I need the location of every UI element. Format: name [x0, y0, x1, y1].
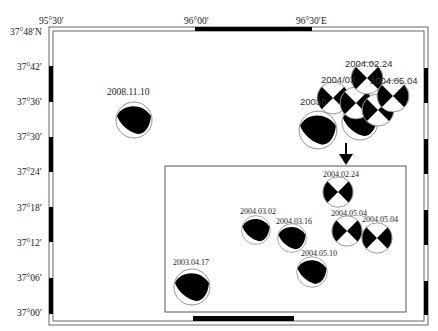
lon-label-96-00: 96°00′	[184, 16, 209, 26]
lat-label-37-36: 37°36′	[17, 97, 42, 107]
lat-label-37-42: 37°42′	[17, 62, 42, 72]
inset-label-2004-05-04-b: 2004.05.04	[362, 215, 398, 224]
inset-box: 2004.02.24 2004.03.02 2004.03.16 2004.05…	[165, 166, 406, 312]
cluster-label-2004-02-24: 2004.02.24	[345, 58, 393, 69]
inset-label-2004-05-10: 2004.05.10	[301, 249, 337, 258]
lat-label-37-48: 37°48′N	[10, 27, 42, 37]
lat-label-37-00: 37°00′	[17, 308, 42, 318]
focal-mechanism-map: 95°30′ 96°00′ 96°30′E 37°48′N 37°42′ 37°…	[0, 0, 438, 331]
down-arrow	[339, 143, 353, 165]
lat-label-37-24: 37°24′	[17, 167, 42, 177]
event-2008-11-10: 2008.11.10	[107, 87, 152, 138]
lat-label-37-06: 37°06′	[17, 273, 42, 283]
inset-label-2003-04-17: 2003.04.17	[173, 258, 209, 267]
left-scale-bar	[49, 66, 53, 314]
lat-label-37-12: 37°12′	[17, 238, 42, 248]
bottom-scale-bar	[193, 316, 294, 321]
cluster-label-2004-03: 2004/03	[321, 74, 355, 85]
inset-label-2004-03-02: 2004.03.02	[240, 207, 276, 216]
lat-label-37-30: 37°30′	[17, 132, 42, 142]
cluster-label-20030: 20030	[300, 96, 326, 107]
event-label: 2008.11.10	[107, 87, 150, 97]
top-scale-bar	[195, 27, 312, 31]
lon-label-96-30: 96°30′E	[296, 16, 327, 26]
lat-label-37-18: 37°18′	[17, 203, 42, 213]
lon-label-95-30: 95°30′	[39, 16, 64, 26]
right-scale-bar	[424, 68, 428, 315]
event-cluster: 2004.02.24 2004/03 2004.05.04 20030	[299, 58, 417, 149]
cluster-label-2004-05-04: 2004.05.04	[370, 75, 418, 86]
